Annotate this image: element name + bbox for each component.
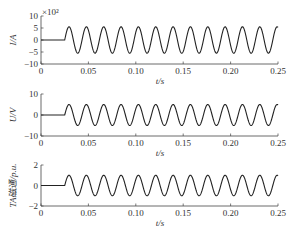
y-tick-label: −10	[24, 59, 39, 69]
x-tick-label: 0.15	[175, 66, 191, 76]
y-tick-label: −5	[28, 47, 38, 57]
y-multiplier: ×10²	[42, 7, 59, 17]
voltage-panel: 00.050.100.150.200.25−10010U/Vt/s	[8, 89, 286, 158]
x-tick-label: 0.10	[128, 138, 144, 148]
current-panel: 00.050.100.150.200.25−10−50510×10²I/At/s	[8, 7, 286, 86]
y-axis-label: TA磁通/p.u.	[8, 164, 18, 208]
y-tick-label: 10	[29, 11, 39, 21]
series-line	[41, 105, 278, 126]
figure: 00.050.100.150.200.25−10−50510×10²I/At/s…	[0, 0, 296, 246]
y-tick-label: 2	[34, 160, 39, 170]
x-axis-label: t/s	[156, 218, 165, 228]
x-tick-label: 0.10	[128, 66, 144, 76]
x-tick-label: 0.25	[270, 66, 286, 76]
y-tick-label: −10	[24, 131, 39, 141]
x-axis-label: t/s	[156, 76, 165, 86]
y-tick-label: 0	[34, 181, 39, 191]
x-tick-label: 0.20	[223, 208, 239, 218]
x-tick-label: 0	[39, 208, 44, 218]
x-tick-label: 0	[39, 138, 44, 148]
x-tick-label: 0.25	[270, 208, 286, 218]
y-tick-label: 5	[34, 23, 39, 33]
ta-flux-panel: 00.050.100.150.200.25−202TA磁通/p.u.t/s	[8, 160, 286, 228]
x-tick-label: 0.05	[81, 66, 97, 76]
x-axis-label: t/s	[156, 148, 165, 158]
x-tick-label: 0.25	[270, 138, 286, 148]
x-tick-label: 0.20	[223, 138, 239, 148]
x-tick-label: 0.15	[175, 138, 191, 148]
x-tick-label: 0	[39, 66, 44, 76]
x-tick-label: 0.10	[128, 208, 144, 218]
series-line	[41, 175, 278, 196]
y-axis-label: I/A	[8, 34, 18, 46]
y-tick-label: −2	[28, 201, 38, 211]
y-axis-label: U/V	[8, 106, 18, 122]
x-tick-label: 0.05	[81, 208, 97, 218]
x-tick-label: 0.15	[175, 208, 191, 218]
y-tick-label: 0	[34, 35, 39, 45]
x-tick-label: 0.05	[81, 138, 97, 148]
series-line	[41, 27, 278, 53]
y-tick-label: 0	[34, 110, 39, 120]
y-tick-label: 10	[29, 89, 39, 99]
x-tick-label: 0.20	[223, 66, 239, 76]
